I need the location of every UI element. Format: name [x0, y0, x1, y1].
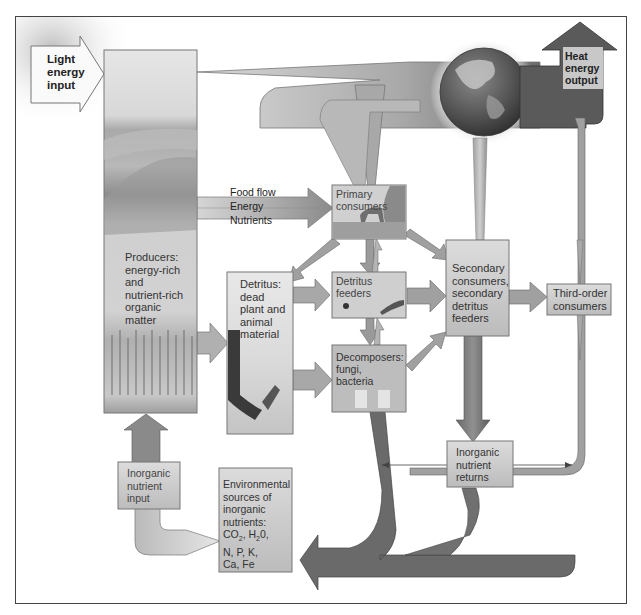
feeders-to-secondary-arrow: [407, 280, 446, 312]
decomposers-line-1: Decomposers:: [336, 351, 404, 363]
energy-globe-to-secondary: [473, 138, 487, 240]
returns-line-3: returns: [456, 471, 499, 484]
primary-consumers-label: Primary consumers: [336, 188, 387, 212]
input-line-1: Inorganic: [127, 467, 170, 480]
env-line-2: sources of: [223, 491, 290, 504]
light-energy-input-label: Light energy input: [47, 53, 87, 92]
third-line-2: consumers: [553, 300, 607, 313]
producers-to-detritus-arrow: [197, 323, 228, 363]
detritus-feeders-label: Detritus feeders: [336, 275, 372, 299]
secondary-line-5: feeders: [452, 312, 509, 325]
third-line-1: Third-order: [553, 287, 607, 300]
detritus-line-1: Detritus:: [240, 278, 285, 291]
env-h2o-end: 0,: [260, 528, 269, 540]
env-co: CO: [223, 528, 239, 540]
detritus-label: Detritus: dead plant and animal material: [240, 278, 285, 341]
primary-line-1: Primary: [336, 188, 387, 200]
flow-arrows: [0, 0, 641, 615]
heat-energy-output-label: Heat energy output: [565, 50, 605, 86]
feeders-line-1: Detritus: [336, 275, 372, 287]
heat-line-2: energy: [565, 62, 605, 74]
decomposers-line-2: fungi,: [336, 363, 404, 375]
light-line-1: Light: [47, 53, 87, 66]
legend-energy: Energy: [230, 200, 263, 212]
env-line-5: CO2, H20,: [223, 528, 290, 546]
env-line-1: Environmental: [223, 478, 290, 491]
decomposers-label: Decomposers: fungi, bacteria: [336, 351, 404, 387]
producers-line-6: matter: [125, 314, 195, 327]
decomposers-line-3: bacteria: [336, 375, 404, 387]
env-line-3: inorganic: [223, 503, 290, 516]
heat-line-3: output: [565, 74, 605, 86]
secondary-to-returns-arrow: [456, 336, 490, 442]
input-line-2: nutrient: [127, 480, 170, 493]
primary-line-2: consumers: [336, 200, 387, 212]
primary-to-secondary-arrow: [404, 229, 448, 260]
environmental-sources-label: Environmental sources of inorganic nutri…: [223, 478, 290, 571]
env-line-6: N, P, K,: [223, 546, 290, 559]
input-line-3: input: [127, 492, 170, 505]
producers-label: Producers: energy-rich and nutrient-rich…: [125, 251, 195, 326]
secondary-to-third-arrow: [509, 282, 547, 312]
secondary-line-4: detritus: [452, 300, 509, 313]
legend-food-flow: Food flow: [230, 186, 276, 198]
returns-line-1: Inorganic: [456, 446, 499, 459]
legend-nutrients: Nutrients: [230, 214, 272, 226]
inorganic-returns-label: Inorganic nutrient returns: [456, 446, 499, 484]
detritus-line-4: animal: [240, 316, 285, 329]
producers-line-5: organic: [125, 301, 195, 314]
secondary-line-1: Secondary: [452, 262, 509, 275]
inorganic-input-label: Inorganic nutrient input: [127, 467, 170, 505]
producers-line-1: Producers:: [125, 251, 195, 264]
decomposers-return-curve: [300, 412, 575, 590]
secondary-line-2: consumers,: [452, 275, 509, 288]
env-line-7: Ca, Fe: [223, 558, 290, 571]
detritus-to-feeders-arrow: [293, 279, 330, 311]
secondary-consumers-label: Secondary consumers, secondary detritus …: [452, 262, 509, 325]
feeders-line-2: feeders: [336, 287, 372, 299]
producers-line-4: nutrient-rich: [125, 289, 195, 302]
detritus-line-2: dead: [240, 291, 285, 304]
detritus-line-3: plant and: [240, 303, 285, 316]
light-line-3: input: [47, 79, 87, 92]
nutrient-to-producers-arrow: [124, 414, 168, 465]
returns-line-2: nutrient: [456, 459, 499, 472]
detritus-line-5: material: [240, 328, 285, 341]
env-h: , H: [243, 528, 256, 540]
producers-line-3: and: [125, 276, 195, 289]
light-line-2: energy: [47, 66, 87, 79]
detritus-to-decomposers-arrow: [293, 362, 332, 398]
heat-line-1: Heat: [565, 50, 605, 62]
env-line-4: nutrients:: [223, 516, 290, 529]
third-order-consumers-label: Third-order consumers: [553, 287, 607, 312]
decomposers-to-secondary-arrow: [406, 332, 446, 371]
producers-line-2: energy-rich: [125, 264, 195, 277]
secondary-line-3: secondary: [452, 287, 509, 300]
